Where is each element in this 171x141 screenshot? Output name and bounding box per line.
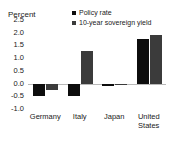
legend-label: Policy rate bbox=[79, 9, 112, 17]
bar bbox=[137, 39, 149, 84]
x-axis-category-label: Germany bbox=[30, 112, 61, 121]
legend-swatch-icon bbox=[72, 11, 76, 15]
bar bbox=[115, 84, 127, 85]
bar bbox=[46, 84, 58, 90]
plot-area bbox=[28, 20, 166, 109]
x-axis-category-label: UnitedStates bbox=[138, 112, 160, 130]
legend-item-policy-rate: Policy rate bbox=[72, 9, 151, 17]
y-axis-tick-label: -0.5 bbox=[11, 92, 24, 100]
x-axis-category-label-line: Germany bbox=[30, 112, 61, 121]
y-axis-tick-label: -1.0 bbox=[11, 105, 24, 113]
x-axis-category-label-line: Japan bbox=[104, 112, 124, 121]
y-axis-tick-label: 2.0 bbox=[14, 29, 24, 37]
y-axis-tick-label: 1.5 bbox=[14, 41, 24, 49]
x-axis-category-labels: GermanyItalyJapanUnitedStates bbox=[28, 112, 166, 140]
x-axis-category-label-line: States bbox=[138, 121, 160, 130]
y-axis-tick-label: 1.0 bbox=[14, 54, 24, 62]
bar bbox=[102, 84, 114, 87]
y-axis-tick-label: 0.0 bbox=[14, 80, 24, 88]
y-axis-tick-label: 2.5 bbox=[14, 16, 24, 24]
y-axis-tick-labels: 2.52.01.51.00.50.0-0.5-1.0 bbox=[0, 20, 26, 109]
bar-group bbox=[63, 20, 98, 109]
x-axis-category-label-line: United bbox=[138, 112, 160, 121]
bar bbox=[150, 35, 162, 83]
y-axis-tick-label: 0.5 bbox=[14, 67, 24, 75]
x-axis-category-label: Japan bbox=[104, 112, 124, 121]
x-axis-category-label-line: Italy bbox=[73, 112, 87, 121]
x-axis-category-label: Italy bbox=[73, 112, 87, 121]
bar bbox=[81, 51, 93, 84]
bar-group bbox=[28, 20, 63, 109]
bar-group bbox=[132, 20, 167, 109]
bar-group bbox=[97, 20, 132, 109]
chart-container: Percent Policy rate 10-year sovereign yi… bbox=[0, 0, 171, 141]
bar bbox=[33, 84, 45, 97]
bar bbox=[68, 84, 80, 97]
